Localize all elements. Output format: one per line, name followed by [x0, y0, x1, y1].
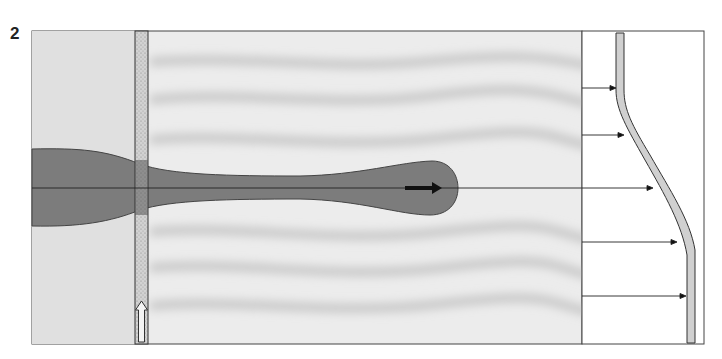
velocity-profile-box	[582, 31, 704, 344]
flow-diagram	[0, 0, 722, 359]
